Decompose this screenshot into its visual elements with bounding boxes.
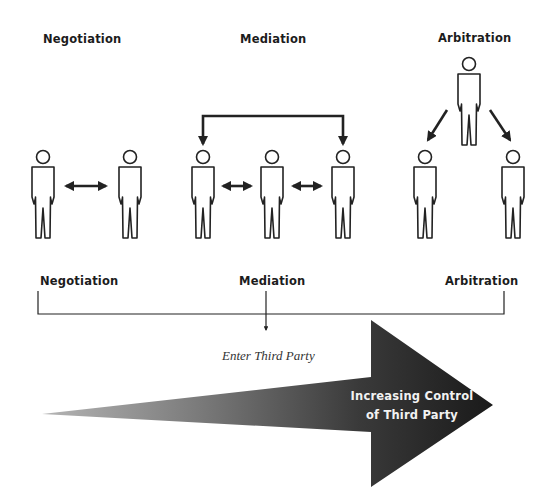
label-mediation: Mediation [240,32,307,46]
person-icon [119,151,141,239]
mediation-group [192,116,354,238]
arrow-down-left-icon [428,110,447,140]
person-icon [192,151,214,239]
label-arbitration: Arbitration [438,31,511,45]
person-icon [502,151,524,239]
scale-label-negotiation: Negotiation [40,274,118,288]
scale-label-arbitration: Arbitration [445,274,518,288]
bracket-arrow-icon [203,116,343,144]
negotiation-group [32,151,141,239]
label-negotiation: Negotiation [43,32,121,46]
enter-third-party-text: Enter Third Party [222,348,315,364]
arrow-caption: Increasing Control of Third Party [344,387,480,425]
arbitration-group [414,58,524,239]
arrow-caption-line1: Increasing Control [344,387,480,406]
person-icon [332,151,354,239]
arrow-down-right-icon [490,110,510,140]
person-icon [261,151,283,239]
person-icon [414,151,436,239]
scale-label-mediation: Mediation [239,274,306,288]
person-icon [458,58,480,146]
person-icon [32,151,54,239]
arrow-caption-line2: of Third Party [344,406,480,425]
scale-bracket [38,291,504,330]
